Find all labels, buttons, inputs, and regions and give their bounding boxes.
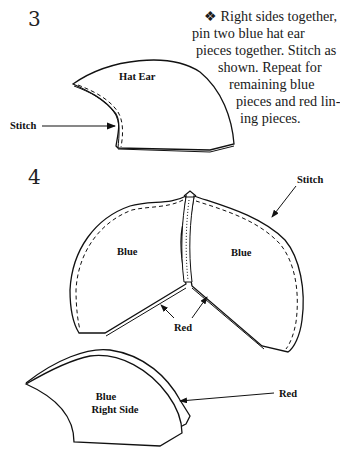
right-side-label: Right Side	[92, 404, 139, 415]
step-4-stitch-arrow	[272, 186, 296, 217]
step-4-right-blue-label: Blue	[231, 247, 252, 258]
hat-ear-label: Hat Ear	[119, 71, 156, 82]
step-4-red-label: Red	[174, 322, 192, 333]
step-3-hat-ear-figure: Hat Ear Stitch Blue Blue Red Stitch Blue…	[0, 0, 340, 452]
step-4-stitch-label: Stitch	[297, 174, 323, 185]
bottom-red-label: Red	[279, 388, 297, 399]
blue-label: Blue	[96, 391, 117, 402]
red-arrow-left	[161, 305, 174, 318]
red-arrow-right	[192, 297, 207, 318]
bottom-red-arrow	[180, 393, 274, 401]
step-4-left-blue-label: Blue	[117, 246, 138, 257]
stitch-callout-label: Stitch	[10, 120, 36, 131]
